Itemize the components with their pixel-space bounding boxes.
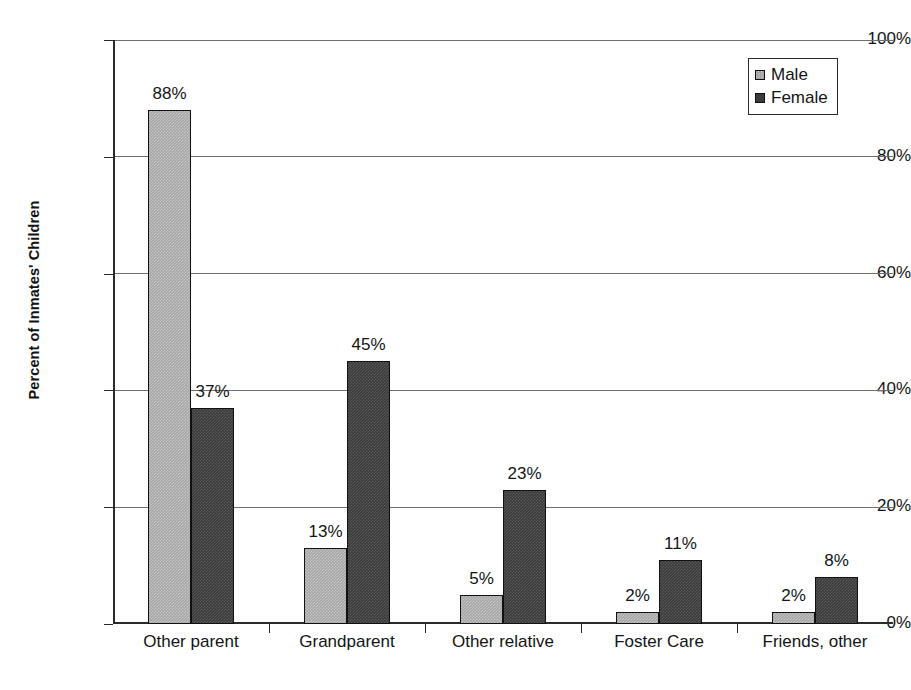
- y-axis-tick-mark: [104, 274, 113, 275]
- bar-female-2[interactable]: [503, 490, 546, 624]
- category-label-3: Foster Care: [581, 632, 737, 652]
- bar-female-1[interactable]: [347, 361, 390, 624]
- category-label-1: Grandparent: [269, 632, 425, 652]
- legend-label-female: Female: [771, 89, 828, 106]
- y-axis-title: Percent of Inmates' Children: [26, 170, 42, 430]
- legend-label-male: Male: [771, 66, 808, 83]
- female-swatch-icon: [755, 93, 765, 103]
- gridline: [113, 156, 893, 157]
- data-label-male-0: 88%: [134, 84, 205, 104]
- y-axis-tick-mark: [104, 157, 113, 158]
- bar-male-3[interactable]: [616, 612, 659, 624]
- bar-female-0[interactable]: [191, 408, 234, 624]
- plot-area: 88%37%13%45%5%23%2%11%2%8%: [113, 40, 893, 624]
- gridline: [113, 40, 893, 41]
- bar-male-0[interactable]: [148, 110, 191, 624]
- bar-male-2[interactable]: [460, 595, 503, 624]
- legend-item-female[interactable]: Female: [755, 86, 828, 109]
- y-axis-tick-mark: [104, 624, 113, 625]
- data-label-male-2: 5%: [446, 569, 517, 589]
- data-label-female-0: 37%: [177, 382, 248, 402]
- male-swatch-icon: [755, 70, 765, 80]
- bar-male-4[interactable]: [772, 612, 815, 624]
- data-label-female-4: 8%: [801, 551, 872, 571]
- category-label-4: Friends, other: [737, 632, 893, 652]
- y-axis-tick-mark: [104, 40, 113, 41]
- gridline: [113, 273, 893, 274]
- legend-item-male[interactable]: Male: [755, 63, 828, 86]
- data-label-male-3: 2%: [602, 586, 673, 606]
- category-label-2: Other relative: [425, 632, 581, 652]
- y-axis-tick-mark: [104, 390, 113, 391]
- data-label-female-1: 45%: [333, 335, 404, 355]
- bar-chart: Percent of Inmates' Children 0%20%40%60%…: [0, 0, 911, 690]
- y-axis-line: [113, 40, 115, 624]
- data-label-male-4: 2%: [758, 586, 829, 606]
- chart-legend: Male Female: [748, 58, 838, 115]
- data-label-male-1: 13%: [290, 522, 361, 542]
- y-axis-tick-mark: [104, 507, 113, 508]
- bar-male-1[interactable]: [304, 548, 347, 624]
- data-label-female-2: 23%: [489, 464, 560, 484]
- data-label-female-3: 11%: [645, 534, 716, 554]
- category-label-0: Other parent: [113, 632, 269, 652]
